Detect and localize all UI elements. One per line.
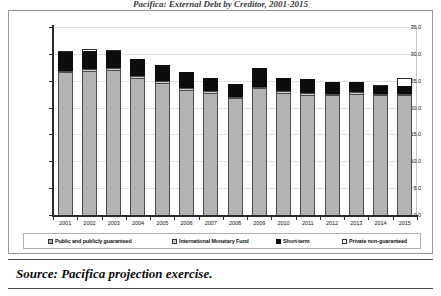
bar-segment-short-term xyxy=(325,82,340,93)
bar-segment-short-term xyxy=(155,65,170,82)
bar-segment-short-term xyxy=(130,59,145,76)
x-axis-tick-mark xyxy=(344,216,345,220)
bar-segment-public-and-publicly-guaranteed xyxy=(130,78,145,216)
bar-2010[interactable] xyxy=(276,78,291,215)
x-axis-tick-mark xyxy=(126,216,127,220)
legend-swatch-icon xyxy=(342,239,347,244)
x-axis-tick-mark xyxy=(271,216,272,220)
x-axis-label-2011: 2011 xyxy=(302,220,314,226)
x-axis-tick-mark xyxy=(393,216,394,220)
bar-segment-short-term xyxy=(300,79,315,93)
source-note-box: Source: Pacifica projection exercise. xyxy=(8,259,433,289)
legend-swatch-icon xyxy=(276,239,281,244)
bar-segment-short-term xyxy=(58,52,73,70)
x-axis-label-2002: 2002 xyxy=(83,220,95,226)
bar-segment-public-and-publicly-guaranteed xyxy=(58,72,73,215)
x-axis-label-2001: 2001 xyxy=(59,220,71,226)
x-axis-label-2015: 2015 xyxy=(399,220,411,226)
x-axis-label-2010: 2010 xyxy=(278,220,290,226)
bar-segment-short-term xyxy=(106,51,121,68)
legend-swatch-icon xyxy=(48,239,53,244)
bar-segment-public-and-publicly-guaranteed xyxy=(300,95,315,215)
bar-segment-short-term xyxy=(252,68,267,87)
bar-segment-short-term xyxy=(82,51,97,69)
bar-segment-public-and-publicly-guaranteed xyxy=(397,95,412,215)
x-axis-tick-mark xyxy=(174,216,175,220)
x-axis-label-2007: 2007 xyxy=(205,220,217,226)
x-axis-tick-mark xyxy=(53,216,54,220)
bar-segment-public-and-publicly-guaranteed xyxy=(179,90,194,215)
bar-segment-public-and-publicly-guaranteed xyxy=(252,88,267,215)
bar-segment-public-and-publicly-guaranteed xyxy=(276,93,291,215)
bar-2013[interactable] xyxy=(349,82,364,215)
legend-label: Private non-guaranteed xyxy=(349,238,407,244)
bar-segment-short-term xyxy=(203,78,218,91)
legend-item-private-non-guaranteed[interactable]: Private non-guaranteed xyxy=(342,238,407,244)
chart-legend: Public and publicly guaranteedInternatio… xyxy=(23,233,421,249)
legend-swatch-icon xyxy=(172,239,177,244)
legend-label: Short-term xyxy=(283,238,310,244)
bar-segment-public-and-publicly-guaranteed xyxy=(203,93,218,215)
x-axis-label-2006: 2006 xyxy=(180,220,192,226)
bar-2014[interactable] xyxy=(373,85,388,215)
bar-2005[interactable] xyxy=(155,65,170,215)
x-axis-tick-mark xyxy=(320,216,321,220)
chart-plot-container: 0.05.010.015.020.025.030.035.0 200120022… xyxy=(23,15,421,227)
legend-label: Public and publicly guaranteed xyxy=(55,238,132,244)
bar-segment-private-non-guaranteed xyxy=(397,78,412,86)
x-axis-tick-mark xyxy=(150,216,151,220)
figure-page: Pacifica: External Debt by Creditor, 200… xyxy=(0,0,441,296)
bar-2012[interactable] xyxy=(325,82,340,215)
bar-2006[interactable] xyxy=(179,72,194,215)
x-axis-tick-mark xyxy=(368,216,369,220)
bar-segment-short-term xyxy=(349,82,364,92)
bar-2002[interactable] xyxy=(82,49,97,215)
bar-segment-short-term xyxy=(397,86,412,94)
x-axis-tick-mark xyxy=(296,216,297,220)
x-axis-label-2012: 2012 xyxy=(326,220,338,226)
x-axis-tick-mark xyxy=(77,216,78,220)
source-note: Source: Pacifica projection exercise. xyxy=(8,266,212,282)
x-axis-label-2013: 2013 xyxy=(350,220,362,226)
x-axis-label-2004: 2004 xyxy=(132,220,144,226)
bar-2015[interactable] xyxy=(397,78,412,215)
bar-2001[interactable] xyxy=(58,51,73,215)
x-axis-tick-mark xyxy=(247,216,248,220)
bar-segment-public-and-publicly-guaranteed xyxy=(325,95,340,215)
bars-group xyxy=(53,27,417,215)
x-axis-label-2005: 2005 xyxy=(156,220,168,226)
bar-segment-public-and-publicly-guaranteed xyxy=(82,71,97,215)
x-axis-label-2014: 2014 xyxy=(375,220,387,226)
legend-item-public-and-publicly-guaranteed[interactable]: Public and publicly guaranteed xyxy=(48,238,132,244)
bar-segment-short-term xyxy=(179,72,194,88)
bar-segment-short-term xyxy=(373,86,388,94)
bar-2003[interactable] xyxy=(106,50,121,215)
bar-segment-public-and-publicly-guaranteed xyxy=(349,94,364,215)
bar-segment-public-and-publicly-guaranteed xyxy=(155,83,170,215)
chart-figure-box: 0.05.010.015.020.025.030.035.0 200120022… xyxy=(8,10,433,254)
legend-label: International Monetary Fund xyxy=(179,238,249,244)
bar-segment-public-and-publicly-guaranteed xyxy=(106,70,121,215)
bar-2008[interactable] xyxy=(228,84,243,215)
x-axis-tick-mark xyxy=(199,216,200,220)
bar-segment-short-term xyxy=(228,84,243,97)
bar-segment-public-and-publicly-guaranteed xyxy=(228,98,243,215)
figure-title-cutoff: Pacifica: External Debt by Creditor, 200… xyxy=(0,0,441,9)
bar-2011[interactable] xyxy=(300,79,315,215)
x-axis-tick-mark xyxy=(417,216,418,220)
x-axis-tick-mark xyxy=(102,216,103,220)
bar-segment-public-and-publicly-guaranteed xyxy=(373,95,388,215)
x-axis-tick-mark xyxy=(223,216,224,220)
x-axis-label-2003: 2003 xyxy=(108,220,120,226)
x-axis-label-2009: 2009 xyxy=(253,220,265,226)
bar-2004[interactable] xyxy=(130,59,145,215)
legend-item-short-term[interactable]: Short-term xyxy=(276,238,310,244)
bar-2009[interactable] xyxy=(252,68,267,215)
legend-item-international-monetary-fund[interactable]: International Monetary Fund xyxy=(172,238,249,244)
x-axis-line xyxy=(52,215,418,217)
bar-segment-short-term xyxy=(276,78,291,92)
x-axis-label-2008: 2008 xyxy=(229,220,241,226)
bar-2007[interactable] xyxy=(203,78,218,215)
